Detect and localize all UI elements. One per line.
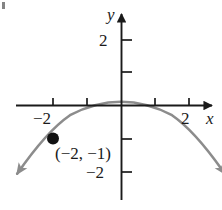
coordinate-plane: [0, 0, 222, 210]
y-tick-label-2: 2: [99, 32, 108, 49]
x-tick-label-2: 2: [181, 110, 190, 127]
y-axis-label: y: [107, 6, 115, 23]
x-tick-label-negative-2: −2: [33, 110, 51, 127]
graph-figure: y x 2 −2 −2 2 (−2, −1): [0, 0, 222, 210]
point-coordinate-label: (−2, −1): [55, 145, 111, 162]
x-axis-label: x: [206, 110, 214, 127]
y-tick-label-negative-2: −2: [86, 164, 104, 181]
data-point-marker: [47, 133, 59, 145]
